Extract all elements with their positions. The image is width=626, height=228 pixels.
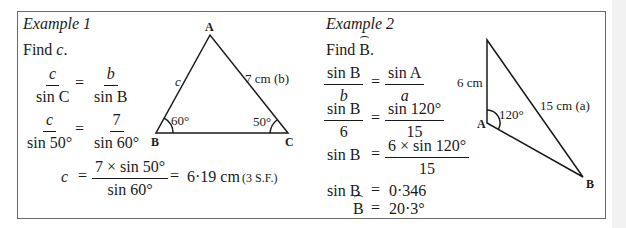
denominator: 6 [337, 121, 351, 141]
denominator: sin B [91, 86, 130, 106]
eq3-result: 6·19 cm [187, 168, 240, 186]
eq4-rhs: 0·346 [389, 182, 426, 200]
equals-sign: = [371, 109, 380, 127]
numerator: b [104, 65, 118, 86]
equals-sign: = [371, 73, 380, 91]
denominator: sin 50° [24, 132, 75, 152]
eq3-fraction: 7 × sin 50° sin 60° [92, 158, 168, 199]
vertex-b-label: B [151, 135, 159, 150]
denominator: sin 60° [91, 132, 142, 152]
eq2-rhs-fraction: 7 sin 60° [91, 111, 142, 152]
example-1-prompt: Find c. [23, 41, 67, 59]
vertex-c-label: C [285, 135, 294, 150]
vertex-a-label: A [477, 117, 486, 132]
prompt-text: Find [326, 41, 359, 58]
angle-b-label: 60° [171, 113, 189, 129]
numerator: sin B [324, 100, 363, 121]
eq1-rhs-fraction: b sin B [91, 65, 130, 106]
prompt-text: Find [23, 41, 56, 58]
example-2-prompt: Find B. [326, 41, 374, 59]
example-2-title: Example 2 [326, 15, 394, 33]
eq3-lhs: c [61, 168, 68, 186]
angle-a-label: 120° [499, 107, 524, 123]
eq5-rhs: 20·3° [389, 200, 425, 218]
denominator: 15 [416, 158, 438, 178]
eq3-note: (3 S.F.) [242, 168, 277, 187]
numerator: c [46, 65, 59, 86]
denominator: sin 60° [105, 179, 156, 199]
denominator: sin C [33, 86, 72, 106]
equals-sign: = [371, 145, 380, 163]
eq2-lhs-fraction: c sin 50° [24, 111, 75, 152]
prompt-period: . [370, 41, 374, 58]
numerator: 7 [110, 111, 124, 132]
eq3-fraction: 6 × sin 120° 15 [385, 137, 469, 178]
equals-sign: = [371, 181, 380, 199]
equals-sign: = [170, 167, 179, 185]
eq5-lhs: B [353, 200, 364, 218]
numerator: c [43, 111, 56, 132]
angle-c-label: 50° [253, 114, 271, 130]
vertex-b-label: B [586, 177, 594, 192]
side-left-label: 6 cm [457, 75, 483, 91]
side-b-label: 7 cm (b) [245, 71, 289, 87]
equals-sign: = [75, 74, 84, 92]
numerator: 6 × sin 120° [385, 137, 469, 158]
equals-sign: = [78, 167, 87, 185]
prompt-period: . [63, 41, 67, 58]
eq3-lhs: sin B [327, 146, 360, 164]
equals-sign: = [371, 199, 380, 217]
side-a-label: 15 cm (a) [540, 98, 590, 114]
eq2-lhs-fraction: sin B 6 [324, 100, 363, 141]
numerator: 7 × sin 50° [92, 158, 168, 179]
numerator: sin 120° [385, 100, 444, 121]
sig-fig-note: (3 S.F.) [242, 171, 277, 185]
numerator: sin A [385, 64, 424, 85]
equals-sign: = [75, 120, 84, 138]
eq1-lhs-fraction: sin B b [324, 64, 363, 105]
numerator: sin B [324, 64, 363, 85]
side-c-label: c [175, 74, 181, 90]
eq1-lhs-fraction: c sin C [33, 65, 72, 106]
b-hat: B [353, 200, 364, 218]
example-1-title: Example 1 [23, 15, 91, 33]
eq1-rhs-fraction: sin A a [385, 64, 424, 105]
eq2-rhs-fraction: sin 120° 15 [385, 100, 444, 141]
prompt-variable-hat: B [359, 41, 370, 59]
vertex-a-label: A [205, 20, 214, 35]
